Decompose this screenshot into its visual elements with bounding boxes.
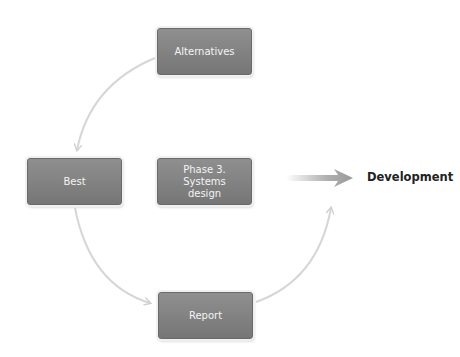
gradient-arrow-icon bbox=[286, 169, 353, 187]
arrow-report-to-development bbox=[256, 208, 331, 302]
target-development-label: Development bbox=[367, 170, 453, 184]
arrow-alternatives-to-best bbox=[77, 58, 155, 150]
cycle-diagram: Alternatives Best Phase 3. Systems desig… bbox=[0, 0, 460, 357]
node-alternatives: Alternatives bbox=[157, 28, 252, 75]
node-report: Report bbox=[158, 292, 253, 339]
node-best: Best bbox=[27, 158, 122, 205]
arrow-best-to-report bbox=[75, 208, 150, 303]
node-phase3-systems-design: Phase 3. Systems design bbox=[157, 158, 252, 205]
